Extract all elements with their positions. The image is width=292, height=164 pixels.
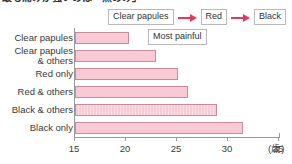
x-tick-label-30: 30	[222, 144, 233, 154]
x-tick-15	[74, 137, 75, 141]
category-label-5: Black only	[30, 123, 73, 134]
category-label-line: Black & others	[12, 104, 73, 115]
x-tick-label-15: 15	[69, 144, 80, 154]
x-axis-endcap	[279, 133, 280, 138]
bar-5	[75, 122, 243, 134]
category-label-line: Black only	[30, 122, 73, 133]
category-label-line: Red & others	[18, 86, 73, 97]
legend-item-black: Black	[254, 9, 286, 25]
x-axis-unit-label: (歳)	[268, 144, 284, 154]
bar-1	[75, 50, 156, 62]
x-tick-label-20: 20	[120, 144, 131, 154]
x-tick-30	[227, 137, 228, 141]
bar-3	[75, 86, 188, 98]
category-label-2: Red only	[36, 69, 74, 80]
bar-4	[75, 104, 217, 116]
x-tick-label-25: 25	[171, 144, 182, 154]
page-title: 最も痛みが強いのは「黒のみ」	[2, 0, 142, 3]
category-label-4: Black & others	[12, 105, 73, 116]
arrow-right-icon	[178, 13, 197, 22]
x-tick-35	[278, 137, 279, 141]
category-label-0: Clear papules	[14, 33, 73, 44]
chart-title-strip: 最も痛みが強いのは「黒のみ」	[0, 0, 292, 7]
category-label-3: Red & others	[18, 87, 73, 98]
x-tick-20	[125, 137, 126, 141]
bar-0	[75, 32, 129, 44]
plot-area: Clear papulesClear papules& othersRed on…	[0, 26, 292, 138]
bar-hatch	[76, 105, 216, 115]
x-tick-25	[176, 137, 177, 141]
bar-2	[75, 68, 178, 80]
category-label-line: Red only	[36, 68, 74, 79]
legend-item-clear: Clear papules	[108, 9, 174, 25]
arrow-right-icon-2	[231, 13, 250, 22]
x-axis-line	[74, 137, 280, 138]
category-label-line: & others	[14, 56, 73, 67]
category-label-line: Clear papules	[14, 45, 73, 56]
legend: Clear papules Red Black	[108, 9, 286, 25]
category-label-1: Clear papules& others	[14, 46, 73, 67]
category-label-line: Clear papules	[14, 32, 73, 43]
legend-item-red: Red	[201, 9, 228, 25]
